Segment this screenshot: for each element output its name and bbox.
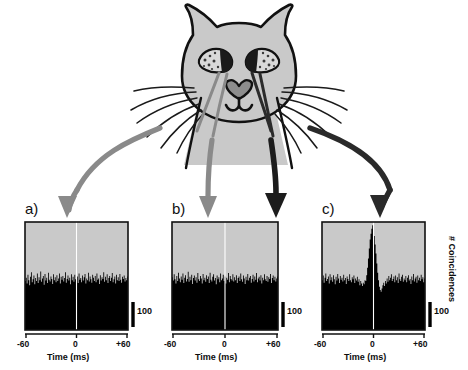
yaxis-title: # Coincidences [447,236,457,302]
panel-b-letter: b) [172,200,185,217]
figure-canvas [0,0,468,370]
panel-c-xtick-label-zero: 0 [370,339,375,349]
panel-b-xtick-label-max: +60 [266,339,280,349]
cat-head-diagram [131,5,347,168]
panel-b-xaxis-title: Time (ms) [195,352,237,362]
panel-a-xtick-label-max: +60 [116,339,130,349]
panel-c-xtick-label-min: -60 [314,339,326,349]
panel-b-xtick-label-min: -60 [164,339,176,349]
cat-right-eye [246,49,280,73]
panel-a-xtick-label-min: -60 [17,339,29,349]
panel-a-xtick-label-zero: 0 [73,339,78,349]
panel-b-scale-label: 100 [287,306,302,316]
panel-c-letter: c) [322,200,335,217]
panel-a-xaxis-title: Time (ms) [47,352,89,362]
panel-b-xtick-label-zero: 0 [222,339,227,349]
panel-a [25,222,133,338]
panel-a-scale-label: 100 [137,306,152,316]
figure-root: a) b) c) -60 0 +60 Time (ms) 100 -60 0 +… [0,0,468,370]
panel-c [322,222,430,338]
panel-c-xtick-label-max: +60 [413,339,427,349]
panel-c-scale-label: 100 [434,306,449,316]
arrow-to-panel-a [58,128,160,218]
panel-b [172,222,283,338]
panel-c-xaxis-title: Time (ms) [344,352,386,362]
panel-a-letter: a) [25,200,38,217]
cat-left-eye [199,49,233,73]
